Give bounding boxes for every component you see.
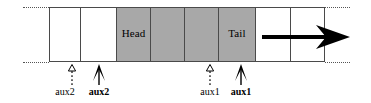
array-cell-label-2: Head (122, 28, 146, 39)
marker-label-aux2-new: aux2 (80, 87, 118, 97)
direction-arrow-icon (260, 23, 352, 51)
array-cell-5-tail[interactable]: Tail (219, 8, 256, 61)
solid-up-arrow-icon (91, 64, 107, 86)
right-top-dotted-line (325, 7, 350, 8)
array-cell-4[interactable] (185, 8, 219, 61)
array-cell-0[interactable] (50, 8, 81, 61)
array-buffer-diagram: Head Tail aux2 a (0, 0, 371, 103)
array-cell-2-head[interactable]: Head (117, 8, 151, 61)
marker-label-aux1-new: aux1 (222, 87, 260, 97)
dotted-up-arrow-icon (203, 64, 217, 86)
marker-label-aux2-old: aux2 (47, 87, 83, 97)
array-cell-label-5: Tail (228, 28, 245, 39)
array-cell-1[interactable] (81, 8, 117, 61)
left-top-dotted-line (23, 7, 49, 8)
array-cell-3[interactable] (151, 8, 185, 61)
left-bottom-dotted-line (23, 62, 49, 63)
right-bottom-dotted-line (325, 62, 350, 63)
dotted-up-arrow-icon (65, 64, 79, 86)
solid-up-arrow-icon (233, 64, 249, 86)
